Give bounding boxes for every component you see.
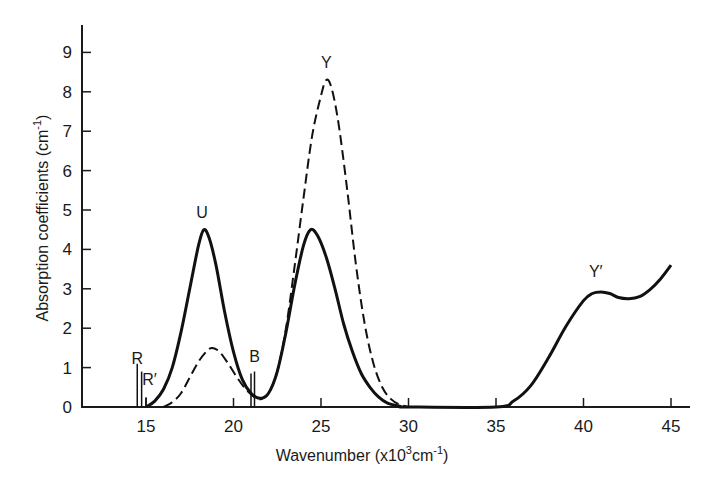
absorption-chart: 0 1 2 3 4 5 6 7 8 9 15 20 25 30 35 40 45… — [0, 0, 717, 483]
x-tick-label: 15 — [137, 417, 156, 436]
y-tick-label: 6 — [63, 162, 72, 181]
y-tick-label: 0 — [63, 398, 72, 417]
x-tick-label: 40 — [574, 417, 593, 436]
y-tick-label: 3 — [63, 280, 72, 299]
x-axis-title: Wavenumber (x103cm-1) — [276, 444, 449, 464]
solid-absorption-curve — [146, 229, 671, 407]
x-tick-label: 45 — [662, 417, 681, 436]
y-tick-label: 1 — [63, 359, 72, 378]
y-ticks — [82, 52, 91, 367]
label-B: B — [249, 348, 260, 365]
label-U: U — [196, 204, 208, 221]
label-R-prime: R′ — [142, 371, 157, 388]
x-tick-labels: 15 20 25 30 35 40 45 — [137, 417, 681, 436]
y-tick-label: 7 — [63, 122, 72, 141]
y-tick-label: 2 — [63, 319, 72, 338]
y-tick-label: 4 — [63, 240, 72, 259]
y-tick-label: 5 — [63, 201, 72, 220]
x-tick-label: 25 — [312, 417, 331, 436]
label-Y-prime: Y′ — [589, 263, 603, 280]
x-tick-label: 30 — [399, 417, 418, 436]
x-tick-label: 20 — [224, 417, 243, 436]
x-tick-label: 35 — [487, 417, 506, 436]
y-tick-label: 9 — [63, 43, 72, 62]
label-R: R — [131, 350, 143, 367]
y-axis-title: Absorption coefficients (cm-1) — [31, 115, 51, 322]
y-tick-labels: 0 1 2 3 4 5 6 7 8 9 — [63, 43, 72, 417]
y-tick-label: 8 — [63, 83, 72, 102]
label-Y: Y — [321, 54, 332, 71]
